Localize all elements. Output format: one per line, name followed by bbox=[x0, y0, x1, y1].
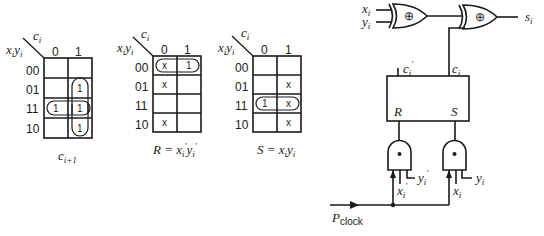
kmap-row-label: 11 bbox=[135, 99, 148, 113]
kmap-cell: 1 bbox=[186, 60, 192, 71]
kmap-col-var: ci bbox=[241, 25, 250, 42]
serial-adder-circuit: xi yi ⊕ ⊕ si ci′ ci R S bbox=[330, 1, 533, 227]
kmap-cell: 1 bbox=[77, 103, 83, 114]
kmap-row-label: 11 bbox=[26, 102, 39, 116]
kmap-row-label: 00 bbox=[135, 61, 149, 75]
kmap-row-label: 01 bbox=[235, 80, 249, 94]
flipflop-q-prime-label: ci′ bbox=[403, 59, 414, 78]
kmap-col-var: ci bbox=[141, 26, 150, 43]
kmap-row-var: xiyi bbox=[5, 42, 23, 59]
arrow-icon bbox=[446, 170, 452, 178]
kmap-cell: x bbox=[286, 98, 291, 109]
serial-adder-diagram: ci xiyi 0 1 00 01 11 10 1 1 1 1 ci+1 ci … bbox=[0, 0, 544, 236]
arrow-icon bbox=[390, 170, 396, 178]
kmap-row-var: xiyi bbox=[116, 40, 134, 57]
kmap-carry: ci xiyi 0 1 00 01 11 10 1 1 1 1 ci+1 bbox=[5, 28, 92, 165]
kmap-set: ci xiyi 0 1 00 01 11 10 x 1 x x S = xiyi bbox=[217, 25, 301, 159]
kmap-col-label: 0 bbox=[52, 45, 59, 59]
and-s-y-input-label: yi bbox=[474, 170, 485, 187]
kmap-cell: 1 bbox=[262, 98, 268, 109]
kmap-cell: x bbox=[162, 117, 167, 128]
kmap-cell: x bbox=[162, 60, 167, 71]
kmap-cell: x bbox=[162, 79, 167, 90]
kmap-col-label: 0 bbox=[261, 43, 268, 57]
kmap-row-label: 01 bbox=[26, 83, 40, 97]
kmap-cell: 1 bbox=[77, 123, 83, 134]
flipflop-q-label: ci bbox=[452, 61, 461, 78]
and-icon bbox=[398, 152, 402, 156]
and-s-x-input-label: xi bbox=[452, 183, 462, 200]
and-icon bbox=[453, 152, 457, 156]
and-r-x-input-label: xi′ bbox=[396, 181, 408, 200]
kmap-row-label: 00 bbox=[235, 61, 249, 75]
kmap-cell: 1 bbox=[53, 103, 59, 114]
kmap-cell: 1 bbox=[77, 83, 83, 94]
kmap-row-label: 10 bbox=[135, 118, 149, 132]
kmap-caption: R = xi′yi′ bbox=[152, 141, 198, 159]
output-s-label: si bbox=[525, 9, 533, 26]
xor-icon: ⊕ bbox=[475, 10, 485, 24]
kmap-cell: x bbox=[286, 117, 291, 128]
xor-icon: ⊕ bbox=[404, 9, 414, 23]
kmap-row-var: xiyi bbox=[217, 40, 235, 57]
junction-dot bbox=[391, 203, 395, 207]
kmap-reset: ci xiyi 0 1 00 01 11 10 x 1 x x R = xi′y… bbox=[116, 26, 201, 159]
kmap-row-label: 10 bbox=[235, 118, 249, 132]
clock-label: Pclock bbox=[331, 210, 364, 227]
kmap-row-label: 01 bbox=[135, 80, 149, 94]
kmap-cell: x bbox=[286, 79, 291, 90]
xor-gate-2: ⊕ bbox=[459, 5, 497, 29]
xor-gate-1: ⊕ bbox=[389, 4, 427, 28]
kmap-col-label: 0 bbox=[161, 43, 168, 57]
kmap-row-label: 10 bbox=[26, 122, 40, 136]
kmap-row-label: 00 bbox=[26, 64, 40, 78]
flipflop-s-label: S bbox=[451, 104, 458, 119]
arrow-icon bbox=[350, 201, 359, 209]
and-r-y-input-label: yi′ bbox=[416, 168, 429, 187]
flipflop-r-label: R bbox=[393, 104, 402, 119]
kmap-col-label: 1 bbox=[75, 45, 82, 59]
kmap-row-label: 11 bbox=[235, 99, 248, 113]
kmap-col-label: 1 bbox=[184, 43, 191, 57]
kmap-caption: ci+1 bbox=[58, 148, 77, 165]
kmap-col-var: ci bbox=[33, 28, 42, 45]
kmap-col-label: 1 bbox=[285, 43, 292, 57]
kmap-caption: S = xiyi bbox=[257, 142, 296, 159]
